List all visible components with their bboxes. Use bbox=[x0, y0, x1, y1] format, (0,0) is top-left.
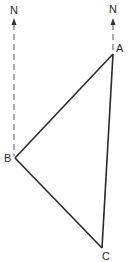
north-arrow-icon bbox=[12, 18, 17, 25]
north-arrow-icon bbox=[111, 18, 116, 25]
triangle-abc bbox=[15, 54, 113, 248]
vertex-label-c: C bbox=[102, 250, 110, 262]
edge-ca bbox=[102, 54, 113, 248]
north-marker-left: N bbox=[10, 4, 18, 156]
vertex-label-a: A bbox=[116, 42, 124, 54]
edge-bc bbox=[15, 158, 102, 248]
north-label-right: N bbox=[109, 3, 117, 15]
north-label-left: N bbox=[10, 4, 18, 16]
vertex-label-b: B bbox=[4, 152, 11, 164]
bearing-diagram: N N A B C bbox=[0, 0, 130, 262]
edge-ab bbox=[15, 54, 113, 158]
